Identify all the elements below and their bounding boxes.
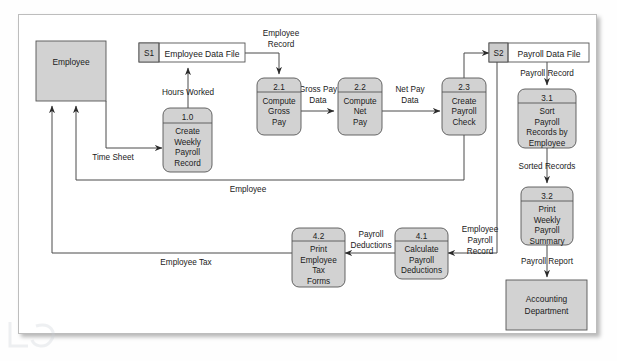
flow-payroll-report: Payroll Report xyxy=(521,245,574,277)
process-4-2-line-1: Print xyxy=(310,245,328,254)
flow-employee-record: Employee Record xyxy=(245,29,300,74)
process-2-3-line-1: Create xyxy=(452,97,477,106)
flow-label-net-pay-1: Net Pay xyxy=(395,85,425,94)
process-4-2[interactable]: 4.2 Print Employee Tax Forms xyxy=(292,228,345,287)
flow-to-payroll-store xyxy=(464,53,489,78)
process-3-1-line-2: Payroll xyxy=(534,118,559,127)
data-store-s1[interactable]: S1 Employee Data File xyxy=(139,43,245,62)
flow-sorted-records: Sorted Records xyxy=(519,148,576,183)
process-3-2-line-4: Summary xyxy=(529,237,565,246)
flow-label-emp-payroll-3: Record xyxy=(467,247,494,256)
process-3-2-line-1: Print xyxy=(539,205,557,214)
process-3-2-line-2: Weekly xyxy=(534,216,562,225)
process-2-1[interactable]: 2.1 Compute Gross Pay xyxy=(257,78,301,135)
external-entity-accounting-label-2: Department xyxy=(525,306,569,316)
flow-payroll-deductions: Payroll Deductions xyxy=(345,230,396,253)
flow-label-employee-tax: Employee Tax xyxy=(160,258,211,267)
process-4-1-line-2: Payroll xyxy=(409,256,434,265)
process-3-2-number: 3.2 xyxy=(541,192,553,201)
process-3-1-line-3: Records by xyxy=(526,128,568,137)
flow-label-gross-pay-1: Gross Pay xyxy=(299,85,338,94)
flow-label-payroll-record: Payroll Record xyxy=(520,69,574,78)
external-entity-employee-label: Employee xyxy=(52,57,90,67)
process-2-1-line-3: Pay xyxy=(272,118,287,127)
process-1-0-line-3: Payroll xyxy=(175,148,200,157)
flow-label-payroll-report: Payroll Report xyxy=(521,257,574,266)
process-2-2-line-1: Compute xyxy=(343,97,377,106)
process-2-2-line-2: Net xyxy=(354,107,367,116)
data-store-s2[interactable]: S2 Payroll Data File xyxy=(489,43,589,62)
process-1-0[interactable]: 1.0 Create Weekly Payroll Record xyxy=(163,108,212,172)
flow-label-emp-payroll-2: Payroll xyxy=(467,236,492,245)
process-2-3-line-3: Check xyxy=(452,118,476,127)
flow-label-net-pay-2: Data xyxy=(401,96,419,105)
flow-payroll-record: Payroll Record xyxy=(520,62,574,85)
process-3-2[interactable]: 3.2 Print Weekly Payroll Summary xyxy=(521,187,573,246)
process-1-0-number: 1.0 xyxy=(182,113,194,122)
diagram-canvas: Time Sheet Hours Worked Employee Record … xyxy=(0,0,617,361)
process-1-0-line-4: Record xyxy=(174,159,201,168)
process-1-0-line-2: Weekly xyxy=(174,138,202,147)
flow-label-employee-record-1: Employee xyxy=(263,29,300,38)
process-2-2-line-3: Pay xyxy=(353,118,368,127)
process-4-1-line-1: Calculate xyxy=(404,245,439,254)
process-3-1-line-4: Employee xyxy=(529,139,566,148)
process-3-1[interactable]: 3.1 Sort Payroll Records by Employee xyxy=(518,89,576,148)
flow-time-sheet: Time Sheet xyxy=(92,101,162,162)
external-entity-accounting-label-1: Accounting xyxy=(526,294,568,304)
flow-label-time-sheet: Time Sheet xyxy=(92,153,134,162)
process-3-1-number: 3.1 xyxy=(541,94,553,103)
data-store-s2-number: S2 xyxy=(493,49,503,58)
flow-label-hours-worked: Hours Worked xyxy=(162,88,215,97)
data-store-s2-name: Payroll Data File xyxy=(517,49,580,59)
process-3-1-line-1: Sort xyxy=(539,107,555,116)
flow-label-sorted-records: Sorted Records xyxy=(519,162,576,171)
process-4-2-line-3: Tax xyxy=(312,266,325,275)
flow-gross-pay-data: Gross Pay Data xyxy=(299,85,338,111)
process-3-2-line-3: Payroll xyxy=(534,226,559,235)
process-1-0-line-1: Create xyxy=(175,127,200,136)
flow-label-emp-payroll-1: Employee xyxy=(462,225,499,234)
external-entity-employee[interactable]: Employee xyxy=(36,41,106,101)
process-2-1-line-2: Gross xyxy=(268,107,290,116)
flow-hours-worked: Hours Worked xyxy=(162,68,215,108)
flow-label-employee-record-2: Record xyxy=(268,40,295,49)
external-entity-accounting-department[interactable]: Accounting Department xyxy=(506,280,587,330)
process-2-2[interactable]: 2.2 Compute Net Pay xyxy=(338,78,382,135)
process-2-3-line-2: Payroll xyxy=(451,107,476,116)
process-2-2-number: 2.2 xyxy=(354,83,366,92)
diagram-stage: Time Sheet Hours Worked Employee Record … xyxy=(0,0,617,361)
process-4-1[interactable]: 4.1 Calculate Payroll Deductions xyxy=(395,228,448,279)
process-4-2-line-2: Employee xyxy=(300,256,337,265)
flow-label-employee: Employee xyxy=(230,185,267,194)
process-2-1-number: 2.1 xyxy=(273,83,285,92)
process-4-1-number: 4.1 xyxy=(416,232,428,241)
process-4-1-line-3: Deductions xyxy=(401,266,442,275)
flow-label-deductions-1: Payroll xyxy=(358,230,383,239)
data-store-s1-name: Employee Data File xyxy=(165,49,240,59)
flow-label-gross-pay-2: Data xyxy=(309,96,327,105)
flow-net-pay-data: Net Pay Data xyxy=(381,85,440,111)
process-4-2-number: 4.2 xyxy=(313,232,325,241)
process-2-3-number: 2.3 xyxy=(458,83,470,92)
process-2-1-line-1: Compute xyxy=(262,97,296,106)
flow-label-deductions-2: Deductions xyxy=(351,241,392,250)
data-store-s1-number: S1 xyxy=(144,49,154,58)
process-2-3[interactable]: 2.3 Create Payroll Check xyxy=(442,78,486,135)
process-4-2-line-4: Forms xyxy=(307,277,330,286)
